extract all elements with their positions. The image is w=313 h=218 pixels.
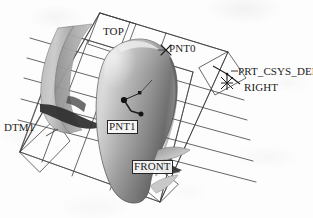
label-right-plane[interactable]: RIGHT (243, 82, 279, 93)
model-graphics (0, 0, 313, 218)
label-top-plane[interactable]: TOP (102, 26, 125, 37)
label-point-pnt1[interactable]: PNT1 (107, 120, 138, 134)
label-dtm1-plane[interactable]: DTM1 (3, 122, 35, 133)
cad-viewport[interactable]: TOP PNT0 PRT_CSYS_DEF RIGHT DTM1 PNT1 FR… (0, 0, 313, 218)
label-point-pnt0[interactable]: PNT0 (168, 43, 197, 54)
coordinate-system-marker[interactable] (213, 66, 240, 90)
label-front-plane[interactable]: FRONT (132, 160, 173, 174)
label-coordinate-system[interactable]: PRT_CSYS_DEF (237, 66, 313, 77)
